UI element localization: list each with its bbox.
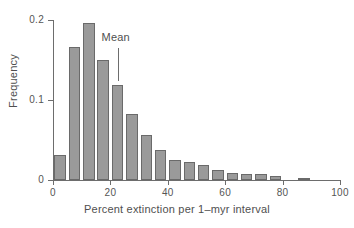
x-tick-label: 0: [38, 187, 68, 198]
plot-area: [53, 20, 340, 180]
histogram-bar: [227, 173, 239, 180]
histogram-bar: [241, 174, 253, 180]
x-axis-line: [53, 180, 341, 181]
x-tick: [225, 181, 226, 185]
y-axis-title: Frequency: [7, 31, 19, 131]
x-tick: [110, 181, 111, 185]
y-tick: [48, 180, 53, 181]
x-axis-title: Percent extinction per 1–myr interval: [0, 203, 354, 215]
histogram-bar: [184, 162, 196, 180]
histogram-bar: [54, 155, 66, 180]
histogram-bar: [126, 114, 138, 180]
histogram-bar: [270, 176, 282, 180]
histogram-bar: [97, 60, 109, 180]
x-tick-label: 100: [325, 187, 354, 198]
histogram-bar: [198, 165, 210, 180]
x-tick-label: 40: [153, 187, 183, 198]
x-tick-label: 60: [210, 187, 240, 198]
histogram-bar: [69, 47, 81, 180]
x-tick: [53, 181, 54, 185]
x-tick: [283, 181, 284, 185]
histogram-bar: [298, 178, 310, 180]
histogram-bar: [112, 85, 124, 180]
y-tick-label: 0.2: [14, 14, 44, 25]
y-tick: [48, 20, 53, 21]
y-tick-label: 0: [14, 174, 44, 185]
histogram-bar: [255, 174, 267, 180]
histogram-bar: [141, 135, 153, 180]
histogram-bar: [83, 23, 95, 180]
histogram-bar: [212, 170, 224, 180]
x-tick: [340, 181, 341, 185]
y-tick: [48, 100, 53, 101]
histogram-figure: 020406080100 00.10.2 Percent extinction …: [0, 0, 354, 228]
x-tick-label: 80: [268, 187, 298, 198]
histogram-bar: [155, 150, 167, 180]
x-tick-label: 20: [95, 187, 125, 198]
x-tick: [168, 181, 169, 185]
histogram-bar: [169, 160, 181, 180]
